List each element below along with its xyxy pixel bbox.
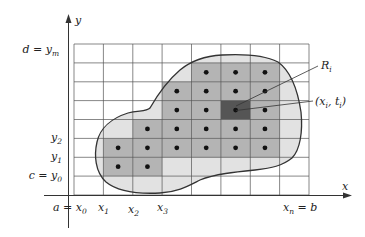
y-axis-label: y — [74, 14, 82, 27]
y-label-c: c = y0 — [29, 169, 63, 184]
sample-point-dot — [145, 127, 150, 132]
sample-point-dot — [263, 108, 268, 113]
y-tick-labels: d = ym y2 y1 c = y0 — [22, 43, 62, 184]
x-label-x2: x2 — [128, 203, 139, 218]
sample-point-dot — [233, 127, 238, 132]
x-label-xn: xn = b — [283, 201, 317, 216]
sample-point-dot — [145, 145, 150, 150]
sample-point-dot — [204, 127, 209, 132]
region-label: Ri — [320, 59, 332, 74]
x-label-x3: x3 — [157, 201, 168, 216]
sample-point-dot — [204, 70, 209, 75]
x-label-a: a = x0 — [53, 201, 87, 216]
sample-point-dot — [116, 164, 121, 169]
sample-point-dot — [116, 145, 121, 150]
sample-point-dot — [263, 145, 268, 150]
sample-point-dot — [204, 145, 209, 150]
y-label-y1: y1 — [50, 150, 62, 165]
sample-point-dot — [174, 108, 179, 113]
x-label-x1: x1 — [98, 201, 109, 216]
y-label-y2: y2 — [50, 131, 62, 146]
y-axis-arrow-icon — [66, 14, 72, 23]
sample-point-dot — [233, 145, 238, 150]
sample-point-dot — [263, 127, 268, 132]
sample-point-dot — [204, 108, 209, 113]
double-integral-partition-diagram: x y d = ym y2 y1 c = y0 a = x0 x1 x2 x3 … — [0, 0, 365, 237]
sample-point-dot — [233, 89, 238, 94]
x-axis-arrow-icon — [343, 193, 352, 199]
sample-point-dot — [174, 127, 179, 132]
sample-point-dot — [233, 70, 238, 75]
sample-point-dot — [145, 164, 150, 169]
sample-point-label: (xi, ti) — [315, 95, 346, 110]
x-axis-label: x — [342, 180, 349, 193]
x-tick-labels: a = x0 x1 x2 x3 xn = b — [53, 201, 317, 218]
y-label-d: d = ym — [22, 43, 59, 58]
sample-point-dot — [174, 89, 179, 94]
sample-point-dot — [174, 145, 179, 150]
sample-point-dot — [263, 70, 268, 75]
sample-point-dot — [204, 89, 209, 94]
